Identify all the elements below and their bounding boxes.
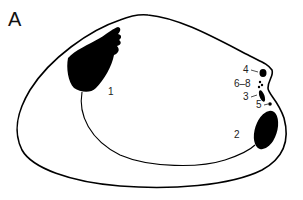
- muscle-scar-7: [261, 84, 263, 86]
- leader-5: [264, 104, 268, 105]
- muscle-scar-5: [268, 102, 272, 106]
- label-2: 2: [234, 129, 240, 140]
- label-4: 4: [243, 64, 249, 75]
- label-1: 1: [108, 86, 114, 97]
- label-6-8: 6–8: [234, 78, 251, 89]
- pallial-line: [81, 92, 255, 165]
- label-5: 5: [256, 99, 262, 110]
- shell-diagram: A 1 2 3 4 5 6–8: [0, 0, 303, 200]
- leader-4: [251, 70, 258, 72]
- panel-letter: A: [8, 8, 22, 30]
- label-3: 3: [243, 91, 249, 102]
- muscle-scar-8: [258, 86, 260, 88]
- muscle-scar-6: [259, 81, 261, 83]
- muscle-scar-1: [67, 27, 121, 92]
- leader-3: [251, 95, 257, 97]
- muscle-scar-4: [260, 69, 267, 77]
